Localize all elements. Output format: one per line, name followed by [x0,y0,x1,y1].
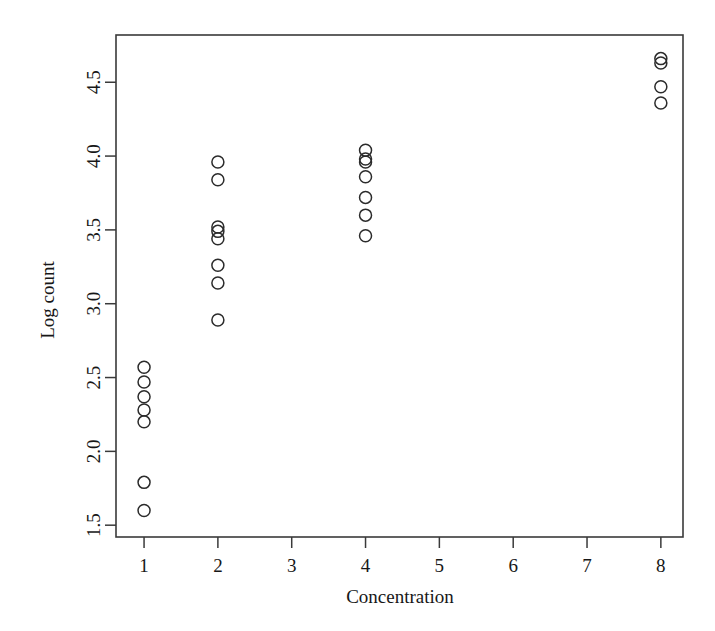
y-tick-label: 3.0 [83,292,104,316]
y-axis-title-text: Log count [37,261,58,339]
x-tick-label: 1 [139,555,149,576]
data-point [138,391,150,403]
data-point [138,376,150,388]
data-point [360,209,372,221]
data-point [138,361,150,373]
y-tick-label: 2.5 [83,366,104,390]
data-point [360,153,372,165]
x-tick-label: 3 [287,555,297,576]
x-tick-label: 2 [213,555,223,576]
data-point [212,259,224,271]
x-tick-label: 5 [435,555,445,576]
data-point [212,174,224,186]
data-point [360,156,372,168]
data-point [360,171,372,183]
data-point [360,191,372,203]
y-axis-title: Log count [37,261,58,339]
x-tick-label: 7 [582,555,592,576]
x-tick-label: 4 [361,555,371,576]
scatter-plot-figure: Log count Concentration 1.52.02.53.03.54… [0,0,715,631]
x-tick-label: 8 [656,555,666,576]
y-tick-label: 2.0 [83,439,104,463]
x-tick-label: 6 [508,555,518,576]
x-axis-title-text: Concentration [346,586,454,607]
data-point-group [138,53,667,517]
y-axis-ticks: 1.52.02.53.03.54.04.5 [83,70,116,537]
data-point [212,156,224,168]
data-point [138,404,150,416]
x-axis-ticks: 12345678 [139,537,665,576]
y-tick-label: 3.5 [83,218,104,242]
data-point [212,277,224,289]
y-tick-label: 4.0 [83,144,104,168]
data-point [655,81,667,93]
plot-canvas: Log count Concentration 1.52.02.53.03.54… [0,0,715,631]
data-point [212,233,224,245]
plot-frame [116,35,683,537]
data-point [212,314,224,326]
data-point [655,97,667,109]
data-point [138,504,150,516]
data-point [138,476,150,488]
y-tick-label: 4.5 [83,70,104,94]
data-point [138,416,150,428]
y-tick-label: 1.5 [83,513,104,537]
x-axis-title: Concentration [346,586,454,607]
data-point [360,230,372,242]
